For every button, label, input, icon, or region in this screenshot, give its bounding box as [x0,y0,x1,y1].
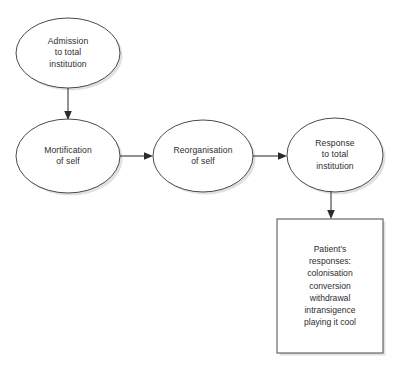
edge-response-to-patient-responses [327,191,335,219]
reorganisation-node[interactable] [153,120,253,192]
diagram-canvas-svg [0,0,400,375]
admission-node[interactable] [16,18,120,88]
edge-reorganisation-to-response [253,152,287,160]
edge-mortification-to-reorganisation [120,152,153,160]
patient-responses-node[interactable] [277,219,383,353]
response-node[interactable] [287,118,383,192]
edge-admission-to-mortification [64,88,72,120]
mortification-node[interactable] [16,119,120,193]
flowchart-diagram: Admission to total institution Mortifica… [0,0,400,375]
